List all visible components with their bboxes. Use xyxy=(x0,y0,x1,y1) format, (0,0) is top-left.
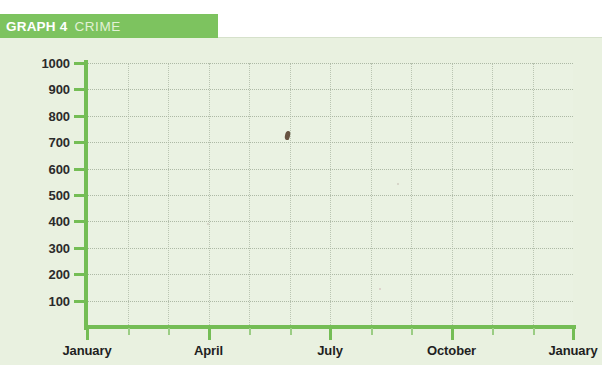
gridline-vertical xyxy=(371,63,372,327)
gridline-vertical xyxy=(249,63,250,327)
y-axis-tick xyxy=(74,88,86,91)
graph-number-label: GRAPH 4 xyxy=(6,19,67,34)
x-axis-tick-major xyxy=(86,328,89,340)
y-axis-tick-label: 900 xyxy=(0,82,70,97)
y-axis-tick xyxy=(74,62,86,65)
x-axis-tick-minor xyxy=(128,328,130,335)
y-axis-tick-label: 100 xyxy=(0,293,70,308)
x-axis-tick-minor xyxy=(492,328,494,335)
x-axis-tick-minor xyxy=(249,328,251,335)
x-axis-tick-label: January xyxy=(27,343,147,358)
y-axis-tick xyxy=(74,273,86,276)
gridline-vertical xyxy=(168,63,169,327)
scan-artifact-dot xyxy=(379,288,381,290)
x-axis-tick-minor xyxy=(168,328,170,335)
chart-header-band: GRAPH 4 CRIME xyxy=(0,14,218,38)
graph-topic-label: CRIME xyxy=(74,19,121,34)
plot-area xyxy=(87,63,573,327)
x-axis-tick-minor xyxy=(411,328,413,335)
gridline-vertical xyxy=(452,63,453,327)
y-axis-tick-label: 300 xyxy=(0,240,70,255)
x-axis-tick-major xyxy=(208,328,211,340)
gridline-vertical xyxy=(411,63,412,327)
gridline-vertical xyxy=(128,63,129,327)
x-axis-tick-label: July xyxy=(270,343,390,358)
y-axis-tick-label: 600 xyxy=(0,161,70,176)
y-axis-tick xyxy=(74,115,86,118)
y-axis-tick xyxy=(74,141,86,144)
x-axis-tick-major xyxy=(572,328,575,340)
gridline-vertical xyxy=(290,63,291,327)
scan-artifact-dot xyxy=(397,183,399,185)
x-axis-tick-label: January xyxy=(513,343,602,358)
gridline-vertical xyxy=(330,63,331,327)
y-axis-tick xyxy=(74,247,86,250)
gridline-vertical xyxy=(533,63,534,327)
gridline-vertical xyxy=(209,63,210,327)
y-axis-tick xyxy=(74,168,86,171)
y-axis-tick-label: 800 xyxy=(0,108,70,123)
gridline-vertical xyxy=(492,63,493,327)
y-axis-tick-label: 200 xyxy=(0,267,70,282)
y-axis-tick xyxy=(74,194,86,197)
y-axis-tick-label: 400 xyxy=(0,214,70,229)
x-axis-tick-label: October xyxy=(392,343,512,358)
x-axis-tick-minor xyxy=(290,328,292,335)
x-axis-tick-major xyxy=(329,328,332,340)
y-axis-tick xyxy=(74,300,86,303)
x-axis-tick-minor xyxy=(371,328,373,335)
y-axis-tick-label: 700 xyxy=(0,135,70,150)
chart-page: GRAPH 4 CRIME 10009008007006005004003002… xyxy=(0,0,602,365)
y-axis-tick-label: 500 xyxy=(0,188,70,203)
y-axis-tick xyxy=(74,220,86,223)
x-axis-tick-label: April xyxy=(149,343,269,358)
x-axis-tick-minor xyxy=(533,328,535,335)
y-axis-tick-label: 1000 xyxy=(0,56,70,71)
x-axis-tick-major xyxy=(451,328,454,340)
